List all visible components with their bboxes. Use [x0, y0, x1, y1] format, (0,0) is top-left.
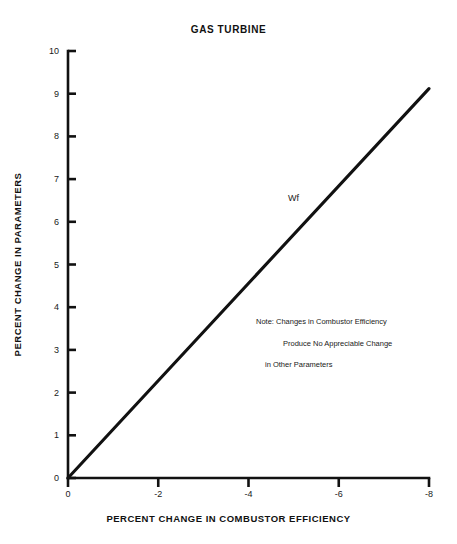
series-line-wf [68, 89, 429, 478]
x-tick-label-2: -4 [244, 489, 252, 499]
y-tick-label-9: 9 [54, 89, 59, 99]
y-tick-label-4: 4 [54, 302, 59, 312]
y-tick-label-5: 5 [54, 260, 59, 270]
x-tick-label-4: -8 [425, 489, 433, 499]
chart-title: GAS TURBINE [0, 24, 457, 35]
chart-figure: GAS TURBINE [0, 0, 457, 544]
note-line-3: in Other Parameters [256, 361, 451, 369]
chart-annotation-note: Note: Changes in Combustor Efficiency Pr… [256, 318, 451, 369]
x-tick-label-3: -6 [335, 489, 343, 499]
plot-svg [58, 41, 439, 488]
y-tick-label-2: 2 [54, 388, 59, 398]
series-label-wf: Wf [288, 193, 299, 203]
y-tick-label-6: 6 [54, 217, 59, 227]
y-tick-label-10: 10 [49, 46, 59, 56]
note-line-1: Note: Changes in Combustor Efficiency [256, 318, 451, 326]
y-tick-label-8: 8 [54, 131, 59, 141]
y-tick-label-0: 0 [54, 473, 59, 483]
x-axis-ticks [68, 478, 429, 487]
y-tick-label-7: 7 [54, 174, 59, 184]
y-tick-label-1: 1 [54, 430, 59, 440]
y-axis-title: PERCENT CHANGE IN PARAMETERS [6, 51, 30, 478]
y-tick-label-3: 3 [54, 345, 59, 355]
x-tick-label-1: -2 [154, 489, 162, 499]
x-axis-title: PERCENT CHANGE IN COMBUSTOR EFFICIENCY [0, 513, 457, 524]
x-tick-label-0: 0 [65, 489, 70, 499]
plot-area: 0 1 2 3 4 5 6 7 8 9 10 0 -2 -4 -6 -8 Wf [68, 51, 429, 478]
note-line-2: Produce No Appreciable Change [256, 340, 451, 348]
